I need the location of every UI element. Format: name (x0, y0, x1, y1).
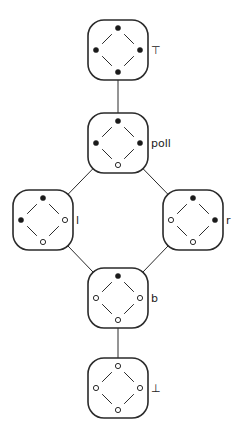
edge-l-b (68, 246, 94, 273)
hollow-dot-icon-left (168, 217, 173, 222)
hollow-dot-icon-bottom (115, 407, 120, 412)
edge-poll-r (143, 168, 169, 194)
filled-dot-icon-top (40, 195, 45, 200)
node-top: ⊤ (88, 20, 161, 80)
hollow-dot-icon-bottom (190, 239, 195, 244)
filled-dot-icon-top (115, 273, 120, 278)
filled-dot-icon-right (137, 140, 142, 145)
node-label: ⊥ (151, 382, 161, 395)
node-r: r (163, 190, 231, 250)
hollow-dot-icon-left (93, 385, 98, 390)
hollow-dot-icon-top (115, 363, 120, 368)
filled-dot-icon-right (137, 47, 142, 52)
hollow-dot-icon-right (62, 217, 67, 222)
hollow-dot-icon-bottom (115, 162, 120, 167)
edge-poll-l (68, 168, 94, 194)
filled-dot-icon-left (18, 217, 23, 222)
node-poll: poll (88, 113, 171, 173)
filled-dot-icon-top (115, 25, 120, 30)
filled-dot-icon-right (212, 217, 217, 222)
node-label: r (226, 214, 231, 227)
hollow-dot-icon-bottom (40, 239, 45, 244)
lattice-diagram: ⊤polllrb⊥ (0, 0, 241, 438)
filled-dot-icon-top (115, 118, 120, 123)
node-label: poll (151, 137, 171, 150)
node-b: b (88, 268, 158, 328)
filled-dot-icon-top (190, 195, 195, 200)
hollow-dot-icon-right (137, 385, 142, 390)
filled-dot-icon-bottom (115, 69, 120, 74)
hollow-dot-icon-bottom (115, 317, 120, 322)
node-label: b (151, 292, 158, 305)
lattice-nodes: ⊤polllrb⊥ (13, 20, 231, 418)
node-label: ⊤ (151, 44, 161, 57)
node-label: l (76, 214, 79, 227)
node-bottom: ⊥ (88, 358, 161, 418)
edge-r-b (143, 246, 169, 273)
filled-dot-icon-left (93, 47, 98, 52)
hollow-dot-icon-right (137, 295, 142, 300)
hollow-dot-icon-left (93, 295, 98, 300)
filled-dot-icon-left (93, 140, 98, 145)
node-l: l (13, 190, 79, 250)
